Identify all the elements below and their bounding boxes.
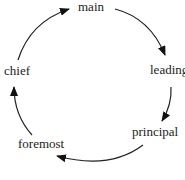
cycle-arrows (0, 0, 185, 180)
node-main: main (78, 0, 104, 14)
node-principal: principal (132, 125, 178, 139)
arrow-principal-to-foremost (57, 145, 143, 161)
node-leading: leading (150, 63, 185, 77)
arrow-main-to-leading (115, 9, 165, 55)
cycle-diagram: main leading principal foremost chief (0, 0, 185, 180)
arrow-foremost-to-chief (14, 87, 32, 135)
arrow-leading-to-principal (162, 87, 171, 121)
arrow-chief-to-main (18, 9, 69, 60)
node-foremost: foremost (18, 137, 64, 151)
node-chief: chief (4, 64, 30, 78)
